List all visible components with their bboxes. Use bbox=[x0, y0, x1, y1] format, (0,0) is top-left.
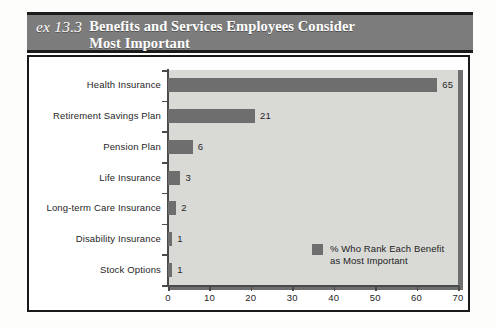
bar-pension-plan bbox=[168, 140, 193, 154]
y-axis-tick bbox=[162, 70, 168, 72]
bar-long-term-care-insurance bbox=[168, 201, 176, 215]
category-label: Stock Options bbox=[29, 264, 161, 275]
legend-label: % Who Rank Each Benefit as Most Importan… bbox=[330, 243, 444, 267]
exhibit-title: Benefits and Services Employees Consider… bbox=[89, 18, 355, 51]
bar-disability-insurance bbox=[168, 232, 172, 246]
x-axis-tick bbox=[375, 286, 377, 291]
x-axis-tick bbox=[168, 286, 170, 291]
x-axis-tick-label: 0 bbox=[165, 292, 170, 303]
bar-stock-options bbox=[168, 263, 172, 277]
bar-life-insurance bbox=[168, 171, 180, 185]
x-axis-tick-label: 40 bbox=[328, 292, 339, 303]
bar-retirement-savings-plan bbox=[168, 109, 255, 123]
category-label: Retirement Savings Plan bbox=[29, 110, 161, 121]
y-axis-tick bbox=[162, 162, 168, 164]
exhibit-header-inner: ex 13.3 Benefits and Services Employees … bbox=[36, 18, 355, 51]
legend-label-line-1: % Who Rank Each Benefit bbox=[330, 243, 444, 254]
exhibit-title-line-2: Most Important bbox=[89, 35, 355, 52]
bar-health-insurance bbox=[168, 78, 437, 92]
category-label: Life Insurance bbox=[29, 172, 161, 183]
x-axis-tick bbox=[251, 286, 253, 291]
bar-value-label: 1 bbox=[177, 233, 182, 244]
plot-shadow-right bbox=[458, 70, 463, 290]
exhibit-title-line-1: Benefits and Services Employees Consider bbox=[89, 18, 355, 34]
x-axis-tick-label: 10 bbox=[204, 292, 215, 303]
bar-value-label: 6 bbox=[198, 141, 203, 152]
chart-legend: % Who Rank Each Benefit as Most Importan… bbox=[312, 243, 444, 267]
x-axis-tick bbox=[292, 286, 294, 291]
y-axis-tick bbox=[162, 224, 168, 226]
category-label: Pension Plan bbox=[29, 141, 161, 152]
x-axis-tick bbox=[334, 286, 336, 291]
category-label: Health Insurance bbox=[29, 79, 161, 90]
x-axis-tick-label: 20 bbox=[245, 292, 256, 303]
category-label: Long-term Care Insurance bbox=[29, 202, 161, 213]
exhibit-header-bar: ex 13.3 Benefits and Services Employees … bbox=[27, 12, 473, 53]
x-axis-tick-label: 60 bbox=[411, 292, 422, 303]
bar-value-label: 3 bbox=[185, 172, 190, 183]
x-axis-tick bbox=[417, 286, 419, 291]
x-axis-tick-label: 30 bbox=[287, 292, 298, 303]
bar-value-label: 1 bbox=[177, 264, 182, 275]
bar-value-label: 21 bbox=[260, 110, 271, 121]
x-axis-tick bbox=[458, 286, 460, 291]
legend-label-line-2: as Most Important bbox=[330, 255, 444, 267]
y-axis-tick bbox=[162, 254, 168, 256]
category-label: Disability Insurance bbox=[29, 233, 161, 244]
x-axis-tick-label: 50 bbox=[370, 292, 381, 303]
bar-value-label: 2 bbox=[181, 202, 186, 213]
x-axis-tick-label: 70 bbox=[453, 292, 464, 303]
exhibit-number: ex 13.3 bbox=[36, 18, 82, 35]
x-axis-tick bbox=[209, 286, 211, 291]
legend-swatch-icon bbox=[312, 244, 323, 255]
chart-frame: 652163211 Health InsuranceRetirement Sav… bbox=[27, 55, 470, 312]
y-axis-tick bbox=[162, 193, 168, 195]
y-axis-tick bbox=[162, 131, 168, 133]
y-axis-tick bbox=[162, 101, 168, 103]
bar-value-label: 65 bbox=[442, 79, 453, 90]
